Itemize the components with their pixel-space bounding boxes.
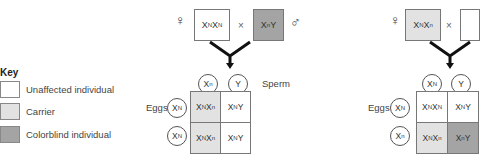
- egg-allele-1: XN: [390, 98, 410, 118]
- cross-symbol: ×: [238, 20, 244, 31]
- punnett-cell: XnY: [447, 122, 479, 154]
- key-item-unaffected: Unaffected individual: [0, 81, 114, 98]
- eggs-label: Eggs: [146, 102, 168, 113]
- egg-allele-1: XN: [167, 98, 187, 118]
- punnett-cell: XNXn: [190, 122, 221, 154]
- unaffected-swatch: [0, 81, 20, 98]
- key-label: Unaffected individual: [26, 84, 114, 95]
- cross-symbol: ×: [446, 20, 452, 31]
- male-genotype-box: XnY: [253, 9, 284, 41]
- punnett-cell: XNXN: [416, 91, 448, 123]
- sperm-label: Sperm: [262, 78, 290, 89]
- egg-allele-2: XN: [167, 126, 187, 146]
- carrier-swatch: [0, 103, 20, 120]
- key-item-carrier: Carrier: [0, 103, 55, 120]
- punnett-cell: XNY: [220, 91, 251, 123]
- cross-arrow-icon: [205, 40, 255, 70]
- female-genotype-box: XNXN: [194, 9, 230, 41]
- key-title: Key: [0, 67, 18, 78]
- female-symbol-icon: ♀: [390, 12, 401, 28]
- female-symbol-icon: ♀: [175, 12, 186, 28]
- colorblind-swatch: [0, 126, 20, 143]
- male-symbol-icon: ♂: [290, 14, 301, 30]
- egg-allele-2: Xn: [390, 126, 410, 146]
- punnett-cell: XNXn: [190, 91, 221, 123]
- cross-arrow-icon: [425, 40, 475, 70]
- punnett-cell: XNXn: [416, 122, 448, 154]
- female-genotype-box: XNXn: [405, 9, 441, 41]
- key-label: Colorblind individual: [26, 129, 111, 140]
- key-label: Carrier: [26, 106, 55, 117]
- punnett-cell: XNY: [220, 122, 251, 154]
- punnett-cell: XNY: [447, 91, 479, 123]
- male-genotype-box: [460, 9, 480, 41]
- eggs-label: Eggs: [368, 102, 390, 113]
- key-item-colorblind: Colorblind individual: [0, 126, 111, 143]
